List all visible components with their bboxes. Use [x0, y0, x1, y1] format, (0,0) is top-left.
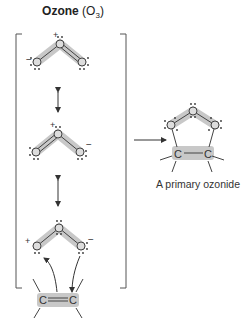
ozone-structure-2: + − [29, 120, 92, 160]
svg-text:−: − [26, 54, 32, 65]
ozonide-carbon-left: C [174, 148, 182, 160]
alkene-carbon-left: C [39, 294, 47, 306]
ozonide-carbon-right: C [204, 148, 212, 160]
primary-ozonide: C C [160, 103, 224, 172]
electron-arrow-left [44, 258, 57, 292]
svg-text:+: + [25, 236, 30, 246]
svg-text:+: + [53, 30, 58, 40]
svg-text:−: − [88, 234, 94, 245]
ozone-structure-3: + − [25, 220, 94, 254]
alkene: C C [33, 279, 83, 318]
svg-text:−: − [86, 139, 92, 150]
resonance-bracket [16, 34, 126, 288]
svg-text:+: + [50, 120, 55, 130]
ozone-structure-1: + − [26, 30, 89, 70]
alkene-carbon-right: C [69, 294, 77, 306]
ozonide-caption: A primary ozonide [148, 178, 248, 190]
reaction-diagram: + − + − + − [0, 0, 249, 326]
